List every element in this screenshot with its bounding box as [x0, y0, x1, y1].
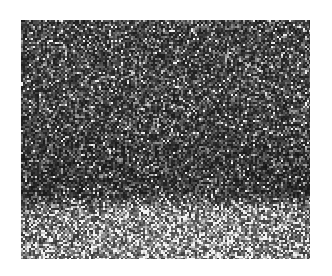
- speckle-canvas: [21, 20, 310, 259]
- speckle-image: [21, 20, 310, 259]
